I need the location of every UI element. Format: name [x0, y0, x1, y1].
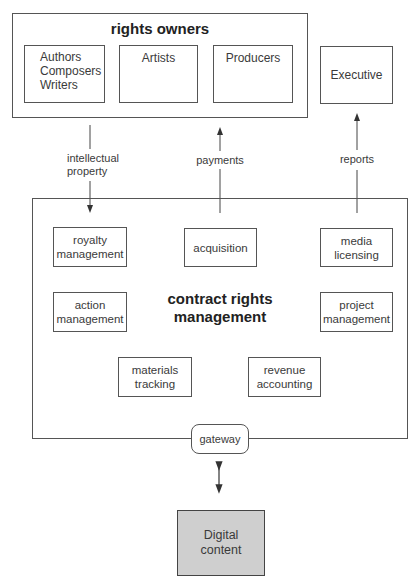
module-revenue-accounting: revenue accounting: [248, 357, 321, 397]
module-project-management: project management: [320, 292, 393, 332]
executive-label: Executive: [320, 46, 393, 104]
reports-label: reports: [327, 153, 387, 166]
module-materials-tracking: materials tracking: [118, 357, 192, 397]
payments-label: payments: [190, 154, 250, 167]
module-action-management: action management: [53, 292, 127, 332]
rights-owners-title: rights owners: [12, 20, 308, 37]
module-media-licensing: media licensing: [320, 228, 393, 267]
digital-content-node: Digital content: [177, 510, 265, 576]
authors-label: Authors Composers Writers: [24, 50, 105, 92]
gateway-node: gateway: [191, 424, 249, 454]
intellectual-property-label: intellectual property: [67, 152, 127, 178]
crm-title: contract rights management: [165, 290, 275, 326]
module-royalty-management: royalty management: [53, 227, 127, 267]
artists-label: Artists: [119, 51, 198, 65]
module-acquisition: acquisition: [184, 228, 257, 267]
producers-label: Producers: [213, 51, 293, 65]
